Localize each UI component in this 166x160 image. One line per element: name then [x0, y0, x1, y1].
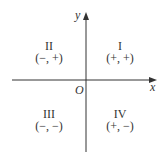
quadrant-I-signs: (+, +): [97, 52, 143, 64]
coordinate-plane: y x O II (−, +) I (+, +) III (−, −) IV (…: [0, 0, 166, 160]
axes-drawing: [0, 0, 166, 160]
origin-label: O: [75, 84, 84, 96]
y-axis-label: y: [75, 9, 80, 21]
x-axis-label: x: [150, 81, 155, 93]
quadrant-IV-signs: (+, −): [97, 120, 143, 132]
quadrant-III-signs: (−, −): [26, 120, 72, 132]
y-axis-arrow-icon: [83, 12, 89, 20]
quadrant-II-signs: (−, +): [26, 52, 72, 64]
